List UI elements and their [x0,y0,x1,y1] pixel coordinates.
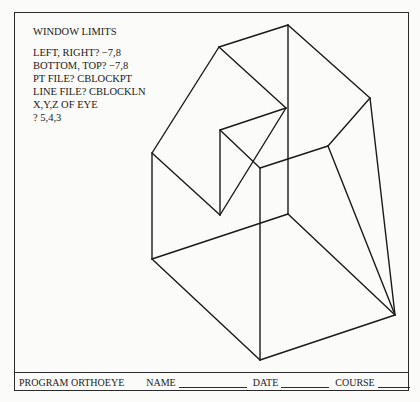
name-field[interactable]: NAME [146,377,246,388]
name-label: NAME [146,377,175,388]
worksheet-footer: PROGRAM ORTHOEYE NAME DATE COURSE [14,372,409,391]
date-label: DATE [253,377,279,388]
name-blank[interactable] [179,378,247,388]
date-field[interactable]: DATE [253,377,330,388]
date-blank[interactable] [281,378,329,388]
course-blank[interactable] [378,378,410,388]
course-field[interactable]: COURSE [335,377,409,388]
program-name: PROGRAM ORTHOEYE [19,377,124,388]
course-label: COURSE [335,377,374,388]
wireframe-drawing [0,0,420,402]
